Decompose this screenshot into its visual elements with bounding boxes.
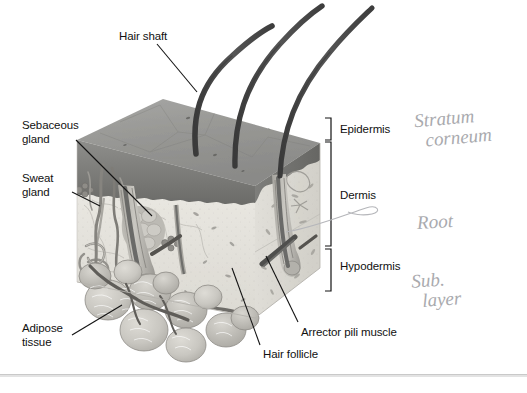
label-arrector-pili-muscle: Arrector pili muscle (301, 326, 397, 340)
label-sebaceous-gland: Sebaceous gland (22, 119, 79, 146)
label-adipose-tissue: Adipose tissue (22, 322, 63, 349)
skin-diagram-page: Hair shaft Sebaceous gland Sweat gland A… (0, 0, 527, 393)
label-dermis: Dermis (340, 189, 376, 203)
dermis-bracket (325, 142, 331, 246)
label-hypodermis: Hypodermis (340, 260, 400, 274)
label-epidermis: Epidermis (340, 123, 390, 137)
label-hair-follicle: Hair follicle (263, 348, 318, 362)
page-bottom-rule-shadow (0, 375, 527, 377)
epidermis-bracket (325, 118, 331, 140)
label-hair-shaft: Hair shaft (119, 30, 167, 44)
hypodermis-bracket (325, 249, 331, 291)
leader-hair-shaft (157, 44, 197, 92)
layer-brackets (325, 118, 331, 291)
skin-cross-section-illustration (0, 0, 527, 393)
label-sweat-gland: Sweat gland (22, 172, 53, 199)
